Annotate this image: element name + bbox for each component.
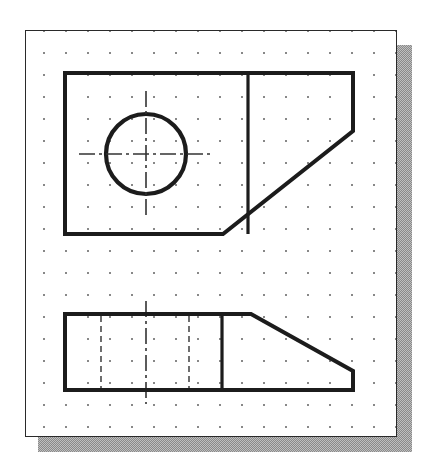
drawing-canvas: Top View Front View Orthographic project… <box>0 0 425 470</box>
top-view-group <box>65 73 353 234</box>
front-view-outline <box>65 314 353 390</box>
drawing-sheet: Top View Front View Orthographic project… <box>25 30 397 437</box>
front-view-group <box>65 301 353 404</box>
technical-drawing-svg <box>26 31 397 437</box>
